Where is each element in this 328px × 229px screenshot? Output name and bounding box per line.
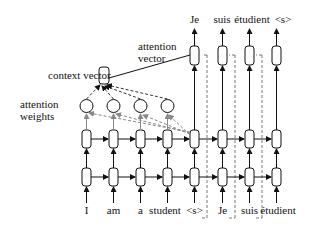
encoder-input-2: a bbox=[138, 204, 143, 216]
decoder-input-2: suis bbox=[241, 204, 258, 216]
context-vector-label: context vector bbox=[48, 69, 111, 81]
attention-weights-label-1: attention bbox=[20, 98, 59, 110]
attention-vector-boxes bbox=[190, 46, 281, 65]
output-label-1: suis bbox=[213, 13, 230, 25]
decoder-input-3: étudient bbox=[260, 204, 295, 216]
decoder-input-1: Je bbox=[218, 204, 227, 216]
encoder-input-1: am bbox=[107, 204, 121, 216]
output-label-2: étudient bbox=[234, 13, 269, 25]
output-label-0: Je bbox=[190, 13, 199, 25]
encoder-input-0: I bbox=[85, 204, 89, 216]
encoder-input-3: student bbox=[149, 204, 181, 216]
attention-weight-circles bbox=[80, 100, 174, 113]
weights-to-context-arrows bbox=[87, 85, 168, 99]
seq2seq-attention-diagram: Je suis étudient <s> attention vector co… bbox=[0, 0, 328, 229]
decoder-input-0: <s> bbox=[186, 204, 203, 216]
output-label-3: <s> bbox=[275, 13, 292, 25]
attention-vector-label-2: vector bbox=[138, 52, 166, 64]
output-arrows bbox=[195, 29, 277, 46]
attention-vector-label-1: attention bbox=[138, 40, 177, 52]
attention-weights-label-2: weights bbox=[20, 110, 54, 122]
